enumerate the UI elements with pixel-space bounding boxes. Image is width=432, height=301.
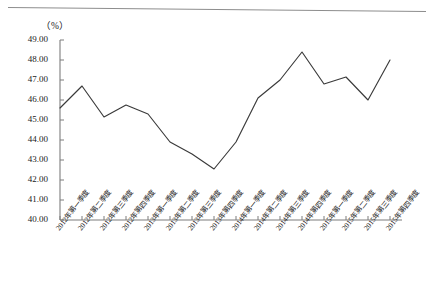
data-series-line — [60, 52, 390, 169]
chart-figure: （%） 49.0048.0047.0046.0045.0044.0043.004… — [0, 0, 432, 301]
y-axis-ticks — [60, 40, 64, 220]
plot-area — [0, 0, 432, 301]
